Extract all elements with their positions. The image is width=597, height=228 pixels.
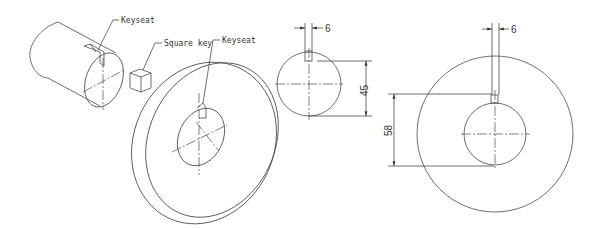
hub-end-view [388,23,573,212]
hub-key-width-dim: 6 [511,24,517,35]
square-key-label: Square key [164,39,212,48]
hub-keyseat-label: Keyseat [222,36,256,45]
shaft-end-view [275,23,372,120]
square-key [130,43,162,92]
shaft-key-width-dim: 6 [325,23,331,34]
shaft-diameter-dim: 45 [359,84,370,96]
shaft-isometric [30,20,131,112]
shaft-keyseat-label: Keyseat [121,16,155,25]
drawing-canvas: Keyseat Square key Keyseat [0,0,597,228]
hub-isometric [105,38,302,228]
hub-depth-dim: 58 [383,124,394,136]
